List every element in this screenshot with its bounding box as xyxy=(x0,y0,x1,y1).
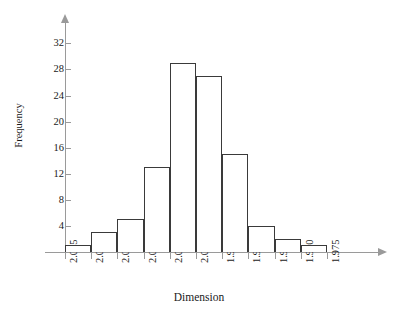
y-axis-tick xyxy=(66,43,71,44)
x-axis-tick xyxy=(248,253,249,259)
histogram-chart: Frequency Dimension 481216202428322.0252… xyxy=(0,0,398,311)
x-axis-title: Dimension xyxy=(0,291,398,303)
histogram-bar xyxy=(275,239,301,252)
histogram-bar xyxy=(301,245,327,252)
y-axis-tick xyxy=(66,148,71,149)
histogram-bar xyxy=(170,63,196,252)
y-axis-tick xyxy=(66,174,71,175)
x-axis-tick xyxy=(144,253,145,259)
x-axis-tick xyxy=(196,253,197,259)
y-axis-tick-label: 12 xyxy=(24,169,64,180)
y-axis-tick xyxy=(66,226,71,227)
histogram-bar xyxy=(248,226,274,252)
y-axis-line xyxy=(65,22,66,253)
histogram-bar xyxy=(196,76,222,252)
y-axis-tick-label: 8 xyxy=(24,195,64,206)
y-axis-tick-label: 32 xyxy=(24,38,64,49)
x-axis-tick xyxy=(222,253,223,259)
y-axis-tick-label: 16 xyxy=(24,143,64,154)
x-axis-tick-label: 1.975 xyxy=(331,239,342,263)
y-axis-tick xyxy=(66,69,71,70)
x-axis-tick xyxy=(91,253,92,259)
histogram-bar xyxy=(222,154,248,252)
histogram-bar xyxy=(117,219,143,252)
y-axis-tick xyxy=(66,122,71,123)
histogram-bar xyxy=(144,167,170,252)
histogram-bar xyxy=(91,232,117,252)
x-axis-tick xyxy=(117,253,118,259)
x-axis-tick xyxy=(170,253,171,259)
y-axis-tick xyxy=(66,200,71,201)
x-axis-tick xyxy=(275,253,276,259)
y-axis-tick-label: 4 xyxy=(24,221,64,232)
y-axis-tick-label: 28 xyxy=(24,64,64,75)
x-axis-tick xyxy=(327,253,328,259)
x-axis-tick xyxy=(65,253,66,259)
x-axis-tick xyxy=(301,253,302,259)
histogram-bar xyxy=(65,245,91,252)
y-axis-tick-label: 20 xyxy=(24,117,64,128)
y-axis-title: Frequency xyxy=(13,86,24,166)
y-axis-tick xyxy=(66,96,71,97)
x-axis-arrow-icon xyxy=(378,248,387,256)
y-axis-tick-label: 24 xyxy=(24,91,64,102)
